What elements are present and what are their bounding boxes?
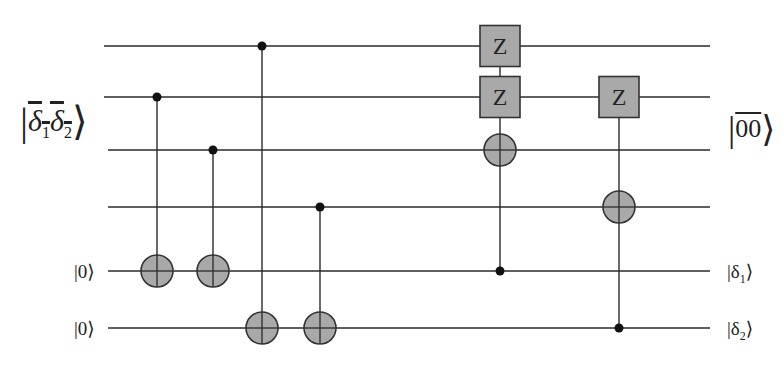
output-label-ancilla-1: |δ1⟩: [727, 262, 753, 285]
delta-1-subscript: 1: [42, 124, 50, 141]
output-label-data-register: |00⟩: [728, 111, 775, 147]
control-dot: [209, 146, 218, 155]
ket-right-angle: ⟩: [761, 109, 775, 149]
delta-1-symbol: δ: [28, 104, 42, 137]
delta-symbol: δ: [731, 261, 740, 282]
control-dot: [153, 93, 162, 102]
overlined-zeros: 00: [735, 114, 761, 143]
delta-2-symbol: δ: [50, 104, 64, 137]
delta-symbol: δ: [731, 318, 740, 339]
delta-2-subscript: 2: [64, 124, 72, 141]
control-dot: [496, 267, 505, 276]
ket-right-angle: ⟩: [72, 99, 88, 144]
control-dot: [258, 42, 267, 51]
control-dot: [615, 324, 624, 333]
overlined-symbol: δ1δ2: [28, 104, 72, 137]
circuit-canvas: ZZZ: [0, 0, 784, 368]
subscript: 1: [740, 272, 746, 286]
z-gate-label: Z: [493, 33, 508, 59]
z-gate-label: Z: [493, 84, 508, 110]
input-label-ancilla-2: |0⟩: [74, 319, 95, 338]
input-label-data-register: |δ1δ2⟩: [20, 102, 88, 142]
input-label-ancilla-1: |0⟩: [74, 262, 95, 281]
ket-left-bar: |: [20, 99, 28, 144]
control-dot: [316, 203, 325, 212]
quantum-circuit-diagram: ZZZ |δ1δ2⟩ |0⟩ |0⟩ |00⟩ |δ1⟩ |δ2⟩: [0, 0, 784, 368]
z-gate-label: Z: [612, 84, 627, 110]
output-label-ancilla-2: |δ2⟩: [727, 319, 753, 342]
subscript: 2: [740, 329, 746, 343]
